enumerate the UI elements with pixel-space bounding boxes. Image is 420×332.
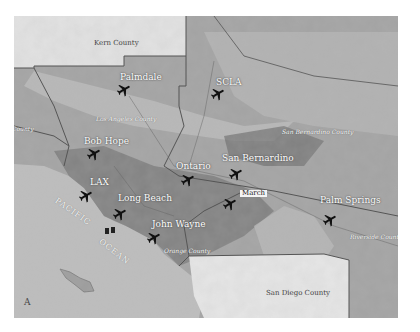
county-label-san-diego: San Diego County [266, 290, 330, 297]
airport-label-long-beach: Long Beach [118, 194, 172, 203]
airport-label-john-wayne: John Wayne [152, 220, 206, 229]
county-label-riverside: Riverside County [350, 234, 398, 240]
airport-icon-john-wayne[interactable] [146, 230, 162, 246]
airport-icon-san-bernardino[interactable] [228, 166, 244, 182]
map-canvas: Kern County Los Angeles County San Berna… [14, 16, 398, 318]
airport-icon-scla[interactable] [210, 86, 226, 102]
airport-label-palm-springs: Palm Springs [320, 196, 381, 205]
airport-icon-march[interactable] [222, 196, 238, 212]
airport-label-palmdale: Palmdale [120, 73, 162, 82]
county-label-san-bernardino: San Bernardino County [282, 129, 353, 135]
airport-icon-lax[interactable] [78, 188, 94, 204]
airport-label-bob-hope: Bob Hope [84, 137, 129, 146]
north-arrow-icon: A [24, 298, 31, 307]
airport-icon-palmdale[interactable] [116, 82, 132, 98]
airport-icon-palm-springs[interactable] [322, 212, 338, 228]
airport-label-ontario: Ontario [176, 162, 211, 171]
port-icon [104, 226, 118, 236]
county-label-kern: Kern County [94, 40, 139, 47]
airport-icon-bob-hope[interactable] [86, 146, 102, 162]
airport-icon-ontario[interactable] [180, 172, 196, 188]
airport-label-march: March [240, 190, 267, 197]
airport-icon-long-beach[interactable] [112, 206, 128, 222]
airport-label-lax: LAX [90, 178, 109, 187]
county-label-los-angeles: Los Angeles County [96, 116, 156, 122]
county-label-ventura: Ventura County [14, 126, 34, 132]
county-label-orange: Orange County [164, 248, 210, 254]
airport-label-san-bernardino: San Bernardino [222, 154, 294, 163]
